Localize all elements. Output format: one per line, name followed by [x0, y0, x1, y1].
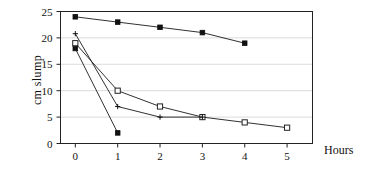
data-point-marker: [115, 88, 120, 93]
data-point-marker: [115, 104, 120, 109]
data-point-marker: [115, 20, 120, 25]
x-tick-label: 5: [284, 150, 290, 162]
line-chart-plot: 0510152025012345: [0, 0, 375, 172]
plot-frame: [61, 12, 313, 144]
x-axis-title: Hours: [324, 143, 353, 158]
series-line-2: [75, 43, 287, 128]
data-point-marker: [158, 25, 163, 30]
data-point-marker: [242, 41, 247, 46]
x-tick-label: 3: [200, 150, 206, 162]
data-point-marker: [73, 15, 78, 20]
y-tick-label: 0: [47, 138, 53, 150]
series-line-3: [75, 34, 202, 117]
data-point-marker: [73, 46, 78, 51]
data-point-marker: [73, 41, 78, 46]
data-point-marker: [157, 115, 162, 120]
data-point-marker: [200, 30, 205, 35]
x-tick-label: 4: [242, 150, 248, 162]
data-point-marker: [242, 120, 247, 125]
y-axis-title: cm slump: [30, 35, 46, 125]
data-point-marker: [73, 31, 78, 36]
x-tick-label: 2: [157, 150, 163, 162]
data-point-marker: [157, 104, 162, 109]
y-tick-label: 5: [47, 111, 53, 123]
chart-container: 0510152025012345 cm slump Hours: [0, 0, 375, 172]
x-tick-label: 1: [115, 150, 121, 162]
data-point-marker: [115, 131, 120, 136]
y-tick-label: 25: [42, 6, 54, 18]
x-tick-label: 0: [73, 150, 79, 162]
series-line-1: [75, 17, 244, 43]
data-point-marker: [285, 125, 290, 130]
